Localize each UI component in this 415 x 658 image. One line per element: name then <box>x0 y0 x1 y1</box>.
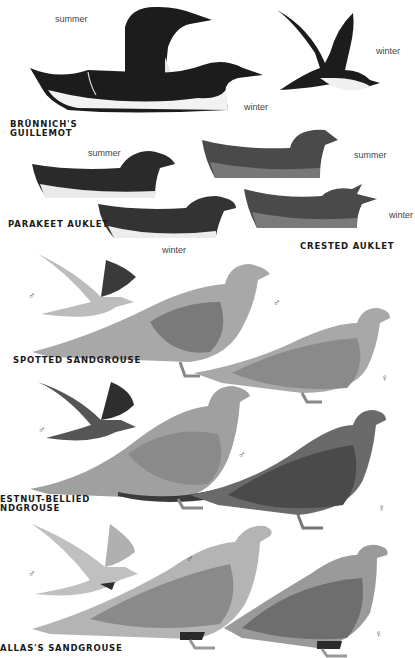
pallas-sandgrouse-female-illustration <box>222 543 392 658</box>
female-symbol: ♀ <box>378 502 386 513</box>
female-symbol: ♀ <box>375 628 383 639</box>
title-line-2: NDGROUSE <box>0 504 90 513</box>
species-title-spotted-sandgrouse: SPOTTED SANDGROUSE <box>13 356 141 365</box>
label-winter-guillemot: winter <box>244 102 268 112</box>
label-winter-parakeet: winter <box>162 245 186 255</box>
title-line-2: GUILLEMOT <box>10 129 77 138</box>
male-symbol: ♂ <box>186 553 194 564</box>
chestnut-bellied-female-illustration <box>188 410 388 530</box>
parakeet-auklet-winter-illustration <box>96 196 241 241</box>
species-title-parakeet-auklet: PARAKEET AUKLET <box>8 220 109 229</box>
guillemot-swimming-illustration <box>28 60 268 120</box>
parakeet-auklet-summer-illustration <box>30 146 180 201</box>
species-title-chestnut-bellied-sandgrouse: ESTNUT-BELLIED NDGROUSE <box>0 495 90 513</box>
label-winter-guillemot-flying: winter <box>376 46 400 56</box>
crested-auklet-summer-illustration <box>200 130 345 185</box>
species-title-crested-auklet: CRESTED AUKLET <box>300 242 394 251</box>
label-winter-crested: winter <box>389 210 413 220</box>
crested-auklet-winter-illustration <box>242 184 382 234</box>
label-summer-guillemot: summer <box>55 14 88 24</box>
species-title-pallas-sandgrouse: ALLAS'S SANDGROUSE <box>0 644 123 653</box>
label-summer-crested: summer <box>354 150 387 160</box>
guillemot-flying-illustration <box>275 8 385 103</box>
female-symbol: ♀ <box>381 372 389 383</box>
species-title-brunnichs-guillemot: BRÜNNICH'S GUILLEMOT <box>10 120 77 138</box>
male-symbol: ♂ <box>273 297 281 308</box>
